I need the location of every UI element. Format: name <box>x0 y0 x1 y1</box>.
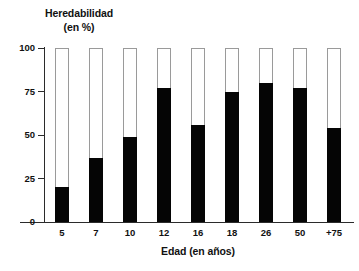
y-axis-tick-mark <box>38 135 45 136</box>
y-axis-tick-label: 0 <box>30 215 35 228</box>
y-axis-tick-label: 100 <box>19 41 35 54</box>
y-axis-tick-mark <box>38 91 45 92</box>
y-axis-title-line1: Heredabilidad <box>4 6 154 20</box>
y-axis-tick-mark <box>38 178 45 179</box>
y-axis-tick-label: 50 <box>24 128 35 141</box>
x-axis-tick-label: +75 <box>314 227 354 238</box>
y-axis-tick-mark <box>38 222 45 223</box>
plot-area <box>45 48 351 222</box>
bar-value <box>55 187 69 222</box>
bar-value <box>327 128 341 222</box>
bar-value <box>259 83 273 222</box>
bar-value <box>157 88 171 222</box>
bar-value <box>293 88 307 222</box>
bar-value <box>123 137 137 222</box>
y-axis-title: Heredabilidad (en %) <box>4 6 154 34</box>
y-axis-tick-mark <box>38 48 45 49</box>
bar-value <box>225 92 239 223</box>
heritability-bar-chart: Heredabilidad (en %) 0255075100 57101216… <box>0 0 359 271</box>
bar-value <box>191 125 205 222</box>
x-axis-title: Edad (en años) <box>45 245 351 257</box>
y-axis-title-line2: (en %) <box>4 20 154 34</box>
y-axis-tick-label: 25 <box>24 172 35 185</box>
y-axis-tick-label: 75 <box>24 85 35 98</box>
bar-value <box>89 158 103 222</box>
x-axis-line <box>20 222 354 223</box>
